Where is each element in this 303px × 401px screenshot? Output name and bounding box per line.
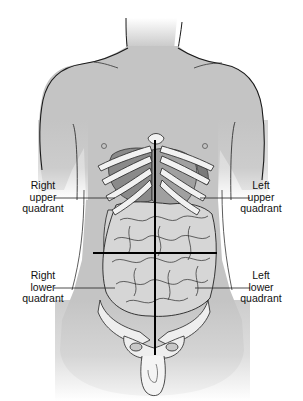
label-line: Right [12,180,74,192]
neck-outline-right [178,22,182,50]
label-line: quadrant [230,293,292,305]
label-line: quadrant [230,203,292,215]
label-line: Right [12,270,74,282]
label-right-upper-quadrant: Right upper quadrant [12,180,74,215]
label-line: quadrant [12,293,74,305]
right-obturator [130,343,142,351]
label-right-lower-quadrant: Right lower quadrant [12,270,74,305]
label-left-lower-quadrant: Left lower quadrant [230,270,292,305]
label-left-upper-quadrant: Left upper quadrant [230,180,292,215]
neck [126,18,177,50]
left-obturator [166,343,178,351]
label-line: quadrant [12,203,74,215]
label-line: Left [230,270,292,282]
genitalia-outline [141,356,166,396]
label-line: Left [230,180,292,192]
